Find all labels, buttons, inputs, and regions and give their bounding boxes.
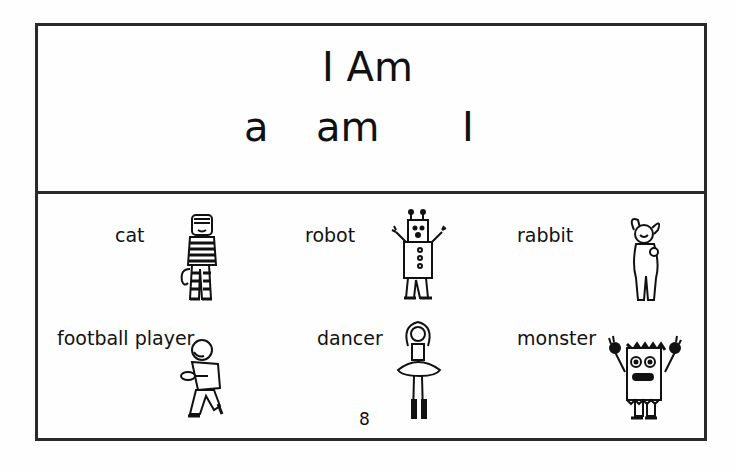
label-football-player: football player (57, 327, 194, 349)
worksheet-page: I Am a am I cat robot (0, 0, 735, 471)
label-monster: monster (517, 327, 596, 349)
cat-costume-icon (176, 213, 224, 305)
sight-word-a: a (244, 104, 269, 150)
football-player-icon (180, 338, 226, 422)
page-title: I Am (0, 44, 735, 90)
label-cat: cat (115, 224, 145, 246)
robot-costume-icon (386, 208, 452, 304)
monster-costume-icon (603, 330, 685, 422)
sight-word-am: am (316, 104, 379, 150)
label-dancer: dancer (317, 327, 383, 349)
rabbit-costume-icon (626, 216, 662, 304)
label-robot: robot (305, 224, 355, 246)
section-divider (35, 191, 707, 194)
sight-word-i: I (462, 104, 474, 150)
label-rabbit: rabbit (517, 224, 573, 246)
dancer-icon (396, 320, 442, 422)
page-number: 8 (359, 409, 370, 429)
